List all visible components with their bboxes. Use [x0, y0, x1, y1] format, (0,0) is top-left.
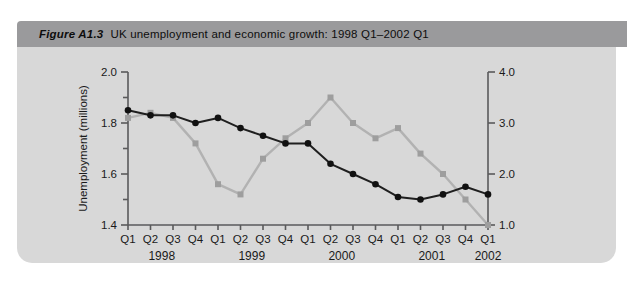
unemployment-point [237, 125, 244, 132]
figure-page: Figure A1.3 UK unemployment and economic… [0, 0, 627, 284]
left-axis: 1.41.61.82.0Unemployment (millions) [77, 66, 128, 231]
x-axis-quarter-label: Q1 [480, 233, 495, 245]
right-axis: 1.02.03.04.0 [488, 66, 515, 231]
x-axis-year-label: 2001 [418, 249, 445, 263]
x-axis-quarter-label: Q1 [210, 233, 225, 245]
unemployment-point [350, 171, 357, 178]
x-axis-year-label: 2000 [328, 249, 355, 263]
unemployment-point [125, 107, 132, 114]
x-axis-quarter-label: Q2 [323, 233, 338, 245]
unemployment-point [417, 196, 424, 203]
x-axis-year-label: 2002 [475, 249, 502, 263]
growth-point [238, 191, 244, 197]
left-axis-tick-label: 1.6 [101, 168, 117, 180]
growth-point [485, 222, 491, 228]
unemployment-point [215, 115, 222, 122]
x-axis-quarter-label: Q4 [458, 233, 474, 245]
unemployment-point [327, 161, 334, 168]
x-axis-quarter-label: Q1 [390, 233, 405, 245]
unemployment-point [170, 112, 177, 119]
x-axis: Q1Q2Q3Q4Q1Q2Q3Q4Q1Q2Q3Q4Q1Q2Q3Q4Q1199819… [120, 225, 501, 263]
unemployment-point [260, 132, 267, 139]
series-growth [125, 95, 491, 229]
unemployment-point [462, 183, 469, 190]
unemployment-point [395, 194, 402, 201]
x-axis-quarter-label: Q2 [413, 233, 428, 245]
unemployment-point [485, 191, 492, 198]
growth-point [305, 120, 311, 126]
chart: 1.41.61.82.0Unemployment (millions)1.02.… [0, 0, 627, 284]
left-axis-tick-label: 1.8 [101, 117, 117, 129]
x-axis-quarter-label: Q3 [345, 233, 360, 245]
x-axis-quarter-label: Q2 [143, 233, 158, 245]
x-axis-quarter-label: Q3 [165, 233, 180, 245]
right-axis-tick-label: 3.0 [499, 117, 515, 129]
growth-point [373, 135, 379, 141]
growth-point [395, 125, 401, 131]
growth-point [328, 95, 334, 101]
x-axis-quarter-label: Q3 [435, 233, 450, 245]
growth-point [440, 171, 446, 177]
right-axis-tick-label: 2.0 [499, 168, 515, 180]
x-axis-quarter-label: Q4 [278, 233, 294, 245]
left-axis-tick-label: 1.4 [101, 219, 118, 231]
growth-point [463, 197, 469, 203]
x-axis-year-label: 1998 [148, 249, 175, 263]
growth-line [128, 98, 488, 226]
unemployment-point [147, 112, 154, 119]
axes [128, 72, 488, 225]
unemployment-point [440, 191, 447, 198]
unemployment-point [282, 140, 289, 147]
x-axis-quarter-label: Q1 [300, 233, 315, 245]
unemployment-point [305, 140, 312, 147]
growth-point [350, 120, 356, 126]
growth-point [193, 140, 199, 146]
x-axis-quarter-label: Q4 [368, 233, 384, 245]
x-axis-quarter-label: Q4 [188, 233, 204, 245]
unemployment-point [192, 120, 199, 127]
growth-point [260, 156, 266, 162]
growth-point [215, 181, 221, 187]
x-axis-quarter-label: Q2 [233, 233, 248, 245]
growth-point [418, 151, 424, 157]
x-axis-year-label: 1999 [238, 249, 265, 263]
x-axis-quarter-label: Q1 [120, 233, 135, 245]
right-axis-tick-label: 1.0 [499, 219, 515, 231]
left-axis-title: Unemployment (millions) [77, 85, 89, 212]
right-axis-tick-label: 4.0 [499, 66, 515, 78]
growth-point [125, 115, 131, 121]
left-axis-tick-label: 2.0 [101, 66, 117, 78]
x-axis-quarter-label: Q3 [255, 233, 270, 245]
unemployment-point [372, 181, 379, 188]
